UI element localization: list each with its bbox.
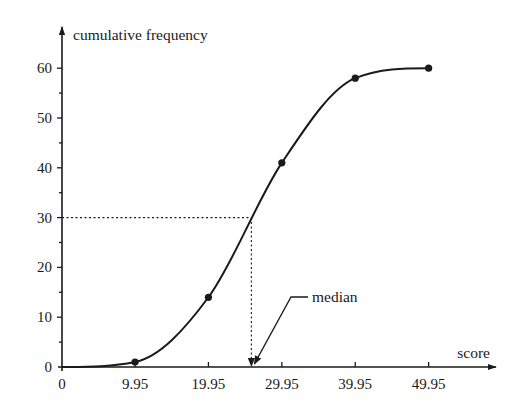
data-points	[131, 65, 432, 366]
data-point	[278, 159, 285, 166]
data-point	[352, 75, 359, 82]
x-tick-label: 9.95	[122, 376, 148, 392]
x-tick-label: 29.95	[265, 376, 299, 392]
x-tick-label: 49.95	[412, 376, 446, 392]
y-axis-title: cumulative frequency	[73, 26, 208, 43]
median-guides: median	[62, 218, 358, 366]
median-leader-line	[254, 297, 308, 364]
x-tick-label: 0	[58, 376, 66, 392]
y-tick-label: 0	[45, 359, 53, 375]
cumulative-frequency-chart: median 09.9519.9529.9539.9549.95 0102030…	[0, 0, 524, 415]
y-tick-label: 60	[37, 60, 52, 76]
data-point	[205, 294, 212, 301]
data-point	[425, 65, 432, 72]
y-tick-label: 40	[37, 160, 52, 176]
y-tick-label: 30	[37, 210, 52, 226]
y-tick-label: 10	[37, 309, 52, 325]
data-point	[131, 358, 138, 365]
x-tick-label: 39.95	[338, 376, 372, 392]
y-ticks: 0102030405060	[37, 60, 62, 375]
x-axis-title: score	[457, 344, 490, 361]
y-tick-label: 50	[37, 110, 52, 126]
median-label: median	[312, 288, 358, 305]
y-tick-label: 20	[37, 259, 52, 275]
x-tick-label: 19.95	[192, 376, 226, 392]
